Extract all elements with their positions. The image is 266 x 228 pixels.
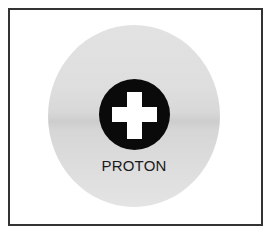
- particle-label: PROTON: [84, 157, 184, 174]
- plus-icon-bar: [112, 107, 157, 122]
